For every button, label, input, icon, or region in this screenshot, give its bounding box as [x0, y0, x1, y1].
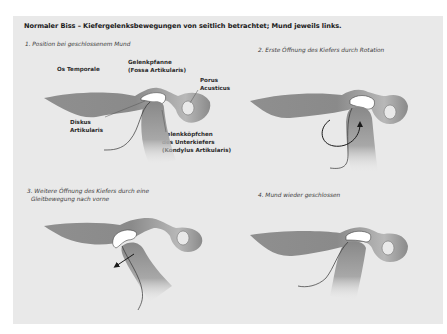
mandible-condyle [330, 241, 366, 300]
porus-acusticus-hole [384, 105, 396, 119]
mandible-condyle [141, 101, 176, 165]
temporal-bone-shape [250, 90, 408, 124]
diagram-panel-4 [250, 227, 408, 300]
diagram-panel-3 [44, 218, 202, 310]
porus-acusticus-hole [382, 241, 394, 255]
mandible-condyle [121, 243, 172, 302]
porus-acusticus-hole [177, 231, 189, 245]
mandible-condyle [346, 106, 378, 172]
diagram-panel-2 [250, 90, 408, 172]
jaw-joint-diagrams [0, 0, 447, 334]
porus-acusticus-hole [182, 101, 194, 115]
diagram-panel-1 [44, 88, 210, 165]
